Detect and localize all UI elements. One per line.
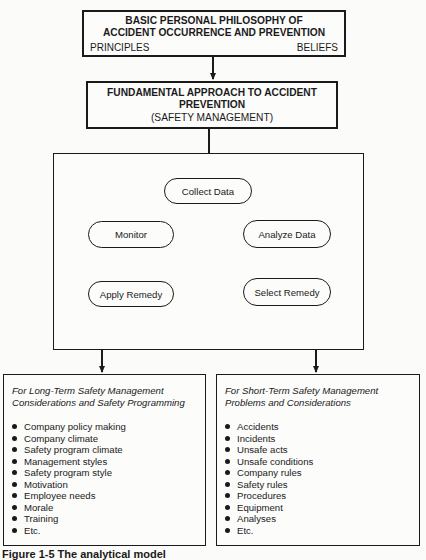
bullet-icon xyxy=(12,436,17,441)
list-item: Management styles xyxy=(12,456,126,468)
approach-line1: FUNDAMENTAL APPROACH TO ACCIDENT xyxy=(88,87,336,99)
bullet-icon xyxy=(225,482,230,487)
bullet-icon xyxy=(225,447,230,452)
bullet-icon xyxy=(12,470,17,475)
list-item: Company climate xyxy=(12,433,126,445)
philosophy-box: BASIC PERSONAL PHILOSOPHY OF ACCIDENT OC… xyxy=(82,10,346,57)
list-item: Unsafe conditions xyxy=(225,456,313,468)
bullet-icon xyxy=(225,424,230,429)
list-item: Etc. xyxy=(225,525,313,537)
short-term-list: Accidents Incidents Unsafe acts Unsafe c… xyxy=(225,421,313,536)
bullet-icon xyxy=(225,470,230,475)
approach-line3: (SAFETY MANAGEMENT) xyxy=(88,112,336,124)
bullet-icon xyxy=(225,459,230,464)
short-term-header: For Short-Term Safety Management Problem… xyxy=(225,385,378,409)
list-item: Motivation xyxy=(12,479,126,491)
list-item: Employee needs xyxy=(12,490,126,502)
list-item: Procedures xyxy=(225,490,313,502)
node-select-remedy: Select Remedy xyxy=(243,278,331,306)
bullet-icon xyxy=(12,447,17,452)
bullet-icon xyxy=(225,505,230,510)
node-collect-data: Collect Data xyxy=(164,178,252,204)
philosophy-title-line2: ACCIDENT OCCURRENCE AND PREVENTION xyxy=(84,27,344,39)
bullet-icon xyxy=(12,424,17,429)
bullet-icon xyxy=(225,528,230,533)
long-term-header-line1: For Long-Term Safety Management xyxy=(12,385,185,397)
long-term-box: For Long-Term Safety Management Consider… xyxy=(3,374,206,546)
approach-box: FUNDAMENTAL APPROACH TO ACCIDENT PREVENT… xyxy=(86,81,338,129)
long-term-list: Company policy making Company climate Sa… xyxy=(12,421,126,536)
list-item: Safety program climate xyxy=(12,444,126,456)
long-term-header-line2: Considerations and Safety Programming xyxy=(12,397,185,409)
list-item: Morale xyxy=(12,502,126,514)
bullet-icon xyxy=(12,493,17,498)
approach-line2: PREVENTION xyxy=(88,99,336,111)
list-item: Training xyxy=(12,513,126,525)
figure-caption: Figure 1-5 The analytical model xyxy=(2,548,166,560)
bullet-icon xyxy=(12,516,17,521)
short-term-header-line2: Problems and Considerations xyxy=(225,397,378,409)
list-item: Etc. xyxy=(12,525,126,537)
beliefs-label: BELIEFS xyxy=(297,42,338,53)
bullet-icon xyxy=(12,459,17,464)
bullet-icon xyxy=(225,436,230,441)
list-item: Safety rules xyxy=(225,479,313,491)
philosophy-title-line1: BASIC PERSONAL PHILOSOPHY OF xyxy=(84,15,344,27)
long-term-header: For Long-Term Safety Management Consider… xyxy=(12,385,185,409)
bullet-icon xyxy=(12,528,17,533)
list-item: Company policy making xyxy=(12,421,126,433)
principles-label: PRINCIPLES xyxy=(90,42,149,53)
list-item: Analyses xyxy=(225,513,313,525)
node-monitor: Monitor xyxy=(88,221,174,248)
list-item: Equipment xyxy=(225,502,313,514)
list-item: Incidents xyxy=(225,433,313,445)
bullet-icon xyxy=(225,493,230,498)
list-item: Safety program style xyxy=(12,467,126,479)
bullet-icon xyxy=(12,482,17,487)
bullet-icon xyxy=(12,505,17,510)
bullet-icon xyxy=(225,516,230,521)
short-term-box: For Short-Term Safety Management Problem… xyxy=(216,374,420,546)
node-analyze-data: Analyze Data xyxy=(243,220,331,248)
list-item: Unsafe acts xyxy=(225,444,313,456)
list-item: Accidents xyxy=(225,421,313,433)
list-item: Company rules xyxy=(225,467,313,479)
node-apply-remedy: Apply Remedy xyxy=(88,281,174,307)
short-term-header-line1: For Short-Term Safety Management xyxy=(225,385,378,397)
